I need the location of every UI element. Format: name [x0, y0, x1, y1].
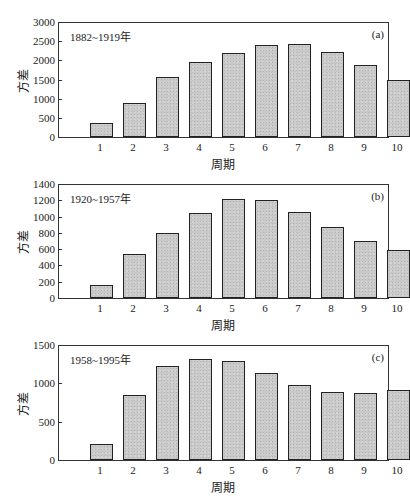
x-tick-label: 3 — [154, 464, 178, 476]
bar — [354, 241, 377, 298]
period-label: 1958~1995年 — [70, 351, 131, 367]
y-tick-mark — [58, 118, 62, 119]
y-tick-label: 500 — [39, 417, 56, 428]
x-tick-label: 2 — [121, 141, 145, 153]
bar — [156, 77, 179, 137]
y-tick-mark — [58, 80, 62, 81]
y-tick-mark — [58, 460, 62, 461]
y-tick-mark — [58, 383, 62, 384]
y-tick-label: 500 — [39, 113, 56, 124]
x-tick-label: 6 — [253, 141, 277, 153]
y-tick-mark — [58, 345, 62, 346]
x-tick-label: 2 — [121, 302, 145, 314]
y-tick-mark — [58, 184, 62, 185]
y-tick-mark — [58, 265, 62, 266]
x-tick-label: 4 — [187, 141, 211, 153]
y-tick-label: 2000 — [33, 55, 55, 66]
y-tick-label: 1000 — [33, 378, 55, 389]
panel-tag: (b) — [371, 190, 384, 202]
bar — [354, 393, 377, 460]
x-tick-label: 1 — [88, 302, 112, 314]
x-tick-label: 10 — [385, 302, 409, 314]
y-tick-mark — [58, 249, 62, 250]
bar — [321, 52, 344, 137]
bar — [90, 123, 113, 137]
x-tick-label: 2 — [121, 464, 145, 476]
y-tick-mark — [58, 298, 62, 299]
bar — [156, 233, 179, 298]
y-axis-label: 方差 — [14, 227, 32, 257]
y-tick-label: 800 — [39, 228, 56, 239]
bar — [387, 80, 410, 137]
y-tick-label: 600 — [39, 244, 56, 255]
y-tick-mark — [58, 99, 62, 100]
x-tick-label: 4 — [187, 302, 211, 314]
y-tick-label: 1000 — [33, 94, 55, 105]
bar — [321, 392, 344, 460]
x-tick-label: 4 — [187, 464, 211, 476]
y-tick-label: 0 — [50, 293, 56, 304]
y-tick-mark — [58, 233, 62, 234]
y-tick-mark — [58, 41, 62, 42]
y-tick-label: 0 — [50, 132, 56, 143]
y-tick-label: 1500 — [33, 75, 55, 86]
bar — [123, 254, 146, 298]
y-axis-label: 方差 — [14, 389, 32, 419]
x-tick-label: 6 — [253, 464, 277, 476]
y-tick-mark — [58, 282, 62, 283]
bar — [255, 200, 278, 298]
x-tick-label: 8 — [319, 302, 343, 314]
y-tick-mark — [58, 137, 62, 138]
y-tick-label: 3000 — [33, 17, 55, 28]
x-tick-label: 7 — [286, 141, 310, 153]
bar — [189, 213, 212, 298]
bar — [288, 212, 311, 298]
x-tick-label: 5 — [220, 302, 244, 314]
x-tick-label: 5 — [220, 464, 244, 476]
x-tick-label: 7 — [286, 302, 310, 314]
y-tick-label: 0 — [50, 455, 56, 466]
bar — [387, 390, 410, 460]
bar — [123, 103, 146, 137]
x-tick-label: 10 — [385, 141, 409, 153]
bar — [156, 366, 179, 460]
y-tick-label: 1400 — [33, 179, 55, 190]
bar — [321, 227, 344, 298]
bar — [288, 385, 311, 460]
bar — [354, 65, 377, 137]
y-tick-label: 1500 — [33, 340, 55, 351]
bar — [189, 359, 212, 460]
x-tick-label: 1 — [88, 464, 112, 476]
period-label: 1882~1919年 — [70, 28, 131, 44]
x-tick-label: 7 — [286, 464, 310, 476]
bar — [189, 62, 212, 137]
x-tick-label: 3 — [154, 141, 178, 153]
panel-tag: (a) — [372, 28, 384, 40]
x-tick-label: 9 — [352, 141, 376, 153]
bar — [123, 395, 146, 460]
y-tick-mark — [58, 60, 62, 61]
x-tick-label: 8 — [319, 464, 343, 476]
bar — [255, 373, 278, 460]
y-tick-label: 1200 — [33, 195, 55, 206]
period-label: 1920~1957年 — [70, 190, 131, 206]
figure-caption-faded: ▁▁▁ ▁▁▁▁▁▁▁▁▁▁▁▁▁▁▁▁▁▁▁▁▁▁▁ — [95, 492, 325, 500]
bar — [222, 53, 245, 137]
panel-tag: (c) — [372, 351, 384, 363]
x-tick-label: 1 — [88, 141, 112, 153]
y-tick-label: 400 — [39, 260, 56, 271]
bar — [387, 250, 410, 298]
bar — [255, 45, 278, 137]
bar — [90, 285, 113, 298]
y-tick-mark — [58, 217, 62, 218]
x-axis-label: 周期 — [0, 155, 406, 173]
y-tick-mark — [58, 200, 62, 201]
x-tick-label: 10 — [385, 464, 409, 476]
bar — [90, 444, 113, 460]
bar — [288, 44, 311, 137]
y-axis-label: 方差 — [14, 66, 32, 96]
x-tick-label: 9 — [352, 302, 376, 314]
y-tick-mark — [58, 22, 62, 23]
x-tick-label: 5 — [220, 141, 244, 153]
y-tick-label: 2500 — [33, 36, 55, 47]
